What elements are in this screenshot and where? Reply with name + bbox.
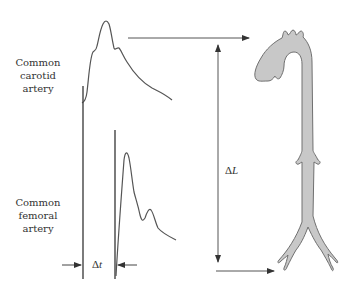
carotid-label-line1: Common — [8, 56, 68, 69]
carotid-waveform — [82, 21, 172, 103]
femoral-label-line3: artery — [8, 222, 68, 235]
delta-t-var: t — [99, 258, 102, 270]
femoral-waveform — [116, 153, 176, 276]
femoral-label-line2: femoral — [8, 209, 68, 222]
delta-l-symbol: ΔL — [225, 164, 238, 176]
femoral-label-line1: Common — [8, 196, 68, 209]
aorta-schematic — [255, 30, 338, 271]
carotid-label-line2: carotid — [8, 69, 68, 82]
carotid-label-line3: artery — [8, 82, 68, 95]
pulse-wave-velocity-diagram — [0, 0, 352, 291]
delta-l-var: L — [232, 164, 238, 176]
delta-t-symbol: Δt — [92, 258, 102, 270]
carotid-label: Common carotid artery — [8, 56, 68, 95]
femoral-label: Common femoral artery — [8, 196, 68, 235]
